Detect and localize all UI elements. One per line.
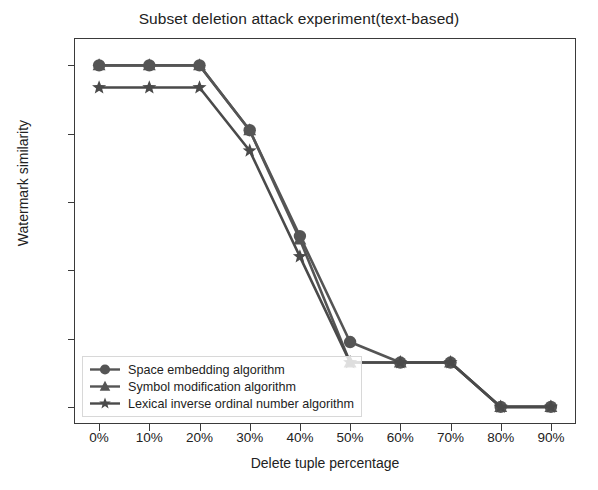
- star-marker-icon: [88, 395, 122, 412]
- x-tick-mark: [451, 424, 452, 431]
- legend-item-label: Space embedding algorithm: [128, 363, 285, 377]
- circle-marker-icon: [88, 361, 122, 378]
- legend-item-label: Symbol modification algorithm: [128, 380, 296, 394]
- legend-item: Lexical inverse ordinal number algorithm: [88, 395, 354, 412]
- chart-title: Subset deletion attack experiment(text-b…: [0, 10, 598, 28]
- legend-item: Space embedding algorithm: [88, 361, 354, 378]
- y-tick-mark: [68, 134, 75, 135]
- x-tick-mark: [501, 424, 502, 431]
- x-tick-mark: [149, 424, 150, 431]
- x-tick-label: 20%: [172, 430, 228, 445]
- x-tick-mark: [200, 424, 201, 431]
- chart-legend: Space embedding algorithm Symbol modific…: [82, 356, 362, 417]
- x-tick-label: 80%: [473, 430, 529, 445]
- x-tick-label: 10%: [121, 430, 177, 445]
- y-tick-mark: [68, 339, 75, 340]
- x-tick-label: 90%: [523, 430, 579, 445]
- x-tick-mark: [300, 424, 301, 431]
- x-tick-mark: [350, 424, 351, 431]
- x-tick-mark: [551, 424, 552, 431]
- y-tick-mark: [68, 202, 75, 203]
- x-tick-mark: [400, 424, 401, 431]
- legend-item-label: Lexical inverse ordinal number algorithm: [128, 397, 354, 411]
- y-tick-mark: [68, 407, 75, 408]
- y-axis-label: Watermark similarity: [15, 83, 31, 283]
- chart-figure: Subset deletion attack experiment(text-b…: [0, 0, 598, 490]
- legend-item: Symbol modification algorithm: [88, 378, 354, 395]
- y-tick-mark: [68, 270, 75, 271]
- x-tick-label: 70%: [423, 430, 479, 445]
- x-axis-label: Delete tuple percentage: [74, 455, 576, 471]
- triangle-up-marker-icon: [88, 378, 122, 395]
- y-tick-mark: [68, 65, 75, 66]
- x-tick-mark: [99, 424, 100, 431]
- x-tick-label: 0%: [71, 430, 127, 445]
- x-tick-label: 30%: [222, 430, 278, 445]
- x-tick-label: 40%: [272, 430, 328, 445]
- x-tick-mark: [250, 424, 251, 431]
- x-tick-label: 50%: [322, 430, 378, 445]
- x-tick-label: 60%: [372, 430, 428, 445]
